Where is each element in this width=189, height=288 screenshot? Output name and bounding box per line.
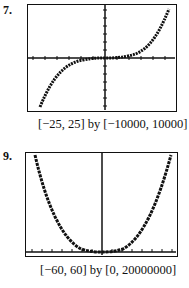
graph-7 [27,4,177,112]
graph-9-plot [26,153,176,255]
window-caption-9: [−60, 60] by [0, 20000000] [40,263,176,278]
problem-number-7: 7. [3,3,12,18]
graph-7-plot [28,5,175,110]
graph-9 [25,152,178,257]
window-caption-7: [−25, 25] by [−10000, 10000] [38,117,188,132]
problem-number-9: 9. [3,149,12,164]
